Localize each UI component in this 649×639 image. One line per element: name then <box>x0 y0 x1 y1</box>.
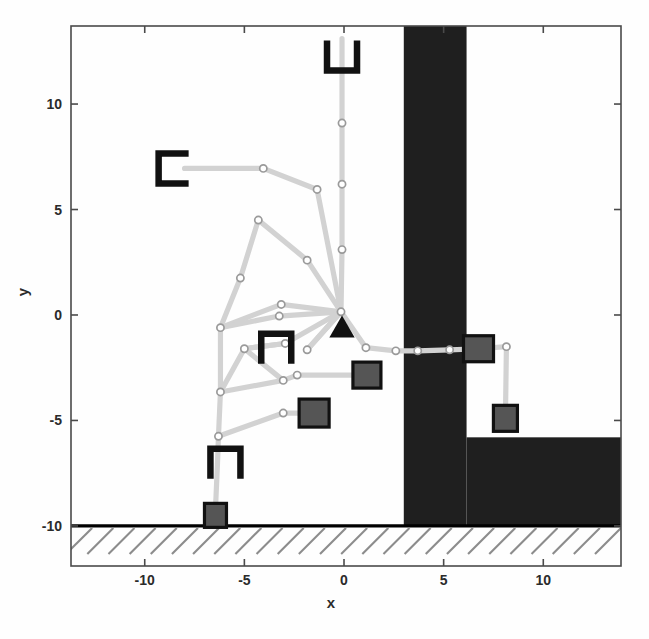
y-tick-label: 5 <box>26 202 62 218</box>
trajectory-edge <box>240 220 258 278</box>
trajectory-node[interactable] <box>337 308 344 315</box>
y-tick-label: 10 <box>26 96 62 112</box>
trajectory-node[interactable] <box>260 165 267 172</box>
trajectory-node[interactable] <box>280 409 287 416</box>
trajectory-node[interactable] <box>217 388 224 395</box>
ground-hatch-line <box>341 528 367 554</box>
ground-hatch-line <box>574 528 600 554</box>
ground-hatch-line <box>87 528 113 554</box>
y-tick-label: 0 <box>26 307 62 323</box>
ground-hatch-line <box>468 528 494 554</box>
trajectory-node[interactable] <box>362 344 369 351</box>
trajectory-edge <box>218 413 283 436</box>
ground-hatch-line <box>130 528 156 554</box>
x-tick-label: 10 <box>535 572 551 588</box>
x-tick-label: 0 <box>340 572 348 588</box>
marker-block-ground[interactable] <box>204 503 226 527</box>
trajectory-node[interactable] <box>338 181 345 188</box>
trajectory-node[interactable] <box>276 312 283 319</box>
trajectory-node[interactable] <box>414 347 421 354</box>
ground-hatch-line <box>447 528 473 554</box>
trajectory-node[interactable] <box>255 216 262 223</box>
ground-hatch-line <box>172 528 198 554</box>
trajectory-node[interactable] <box>278 301 285 308</box>
y-tick-label: -10 <box>26 518 62 534</box>
trajectory-edge <box>258 220 307 260</box>
ground-hatch-line <box>193 528 219 554</box>
trajectory-node[interactable] <box>338 246 345 253</box>
figure-root: x y -10-50510 1050-5-10 <box>0 0 649 639</box>
trajectory-edge <box>263 168 317 189</box>
trajectory-edge <box>366 348 396 351</box>
plot-canvas <box>0 0 649 639</box>
ground-hatch-line <box>383 528 409 554</box>
ground-hatch-line <box>257 528 283 554</box>
ground-hatch-line <box>595 528 621 554</box>
ground-hatch-line <box>553 528 579 554</box>
marker-block-right-lower[interactable] <box>493 405 517 431</box>
trajectory-node[interactable] <box>314 186 321 193</box>
plot-content <box>45 26 621 554</box>
ground-hatch-line <box>151 528 177 554</box>
ground-hatch-line <box>510 528 536 554</box>
trajectory-node[interactable] <box>294 372 301 379</box>
trajectory-edge <box>220 349 244 392</box>
y-tick-label: -5 <box>26 412 62 428</box>
trajectory-edge <box>220 380 283 392</box>
gripper-gripper-mid[interactable] <box>261 334 291 364</box>
trajectory-node[interactable] <box>446 346 453 353</box>
marker-block-right-upper[interactable] <box>464 336 494 362</box>
marker-block-lower-left[interactable] <box>299 399 329 427</box>
ground-hatch-line <box>489 528 515 554</box>
ground-hatch-line <box>426 528 452 554</box>
trajectory-edge <box>244 343 285 348</box>
ground-hatch-line <box>320 528 346 554</box>
ground-hatch-line <box>108 528 134 554</box>
ground-hatch-line <box>299 528 325 554</box>
trajectory-edge <box>218 392 220 436</box>
ground-hatch-line <box>362 528 388 554</box>
x-tick-label: -10 <box>135 572 155 588</box>
trajectory-node[interactable] <box>282 340 289 347</box>
trajectory-edge <box>418 350 450 351</box>
x-tick-label: 5 <box>440 572 448 588</box>
x-tick-label: -5 <box>238 572 250 588</box>
ground-hatch-line <box>214 528 240 554</box>
ground-hatch-line <box>278 528 304 554</box>
trajectory-node[interactable] <box>304 346 311 353</box>
trajectory-node[interactable] <box>217 324 224 331</box>
ground-hatch-line <box>235 528 261 554</box>
ground-hatch-line <box>405 528 431 554</box>
trajectory-node[interactable] <box>237 274 244 281</box>
ground-hatch-line <box>66 528 92 554</box>
trajectory-node[interactable] <box>241 345 248 352</box>
x-axis-label: x <box>327 594 335 611</box>
trajectory-node[interactable] <box>280 377 287 384</box>
trajectory-node[interactable] <box>304 257 311 264</box>
trajectory-node[interactable] <box>503 343 510 350</box>
trajectory-node[interactable] <box>338 119 345 126</box>
trajectory-node[interactable] <box>392 347 399 354</box>
y-axis-label: y <box>14 288 31 296</box>
trajectory-node[interactable] <box>215 433 222 440</box>
obstacle-vertical-wall <box>404 26 467 526</box>
obstacle-lower-right-shelf <box>467 437 621 526</box>
ground-hatch-line <box>532 528 558 554</box>
marker-block-center[interactable] <box>353 362 381 388</box>
